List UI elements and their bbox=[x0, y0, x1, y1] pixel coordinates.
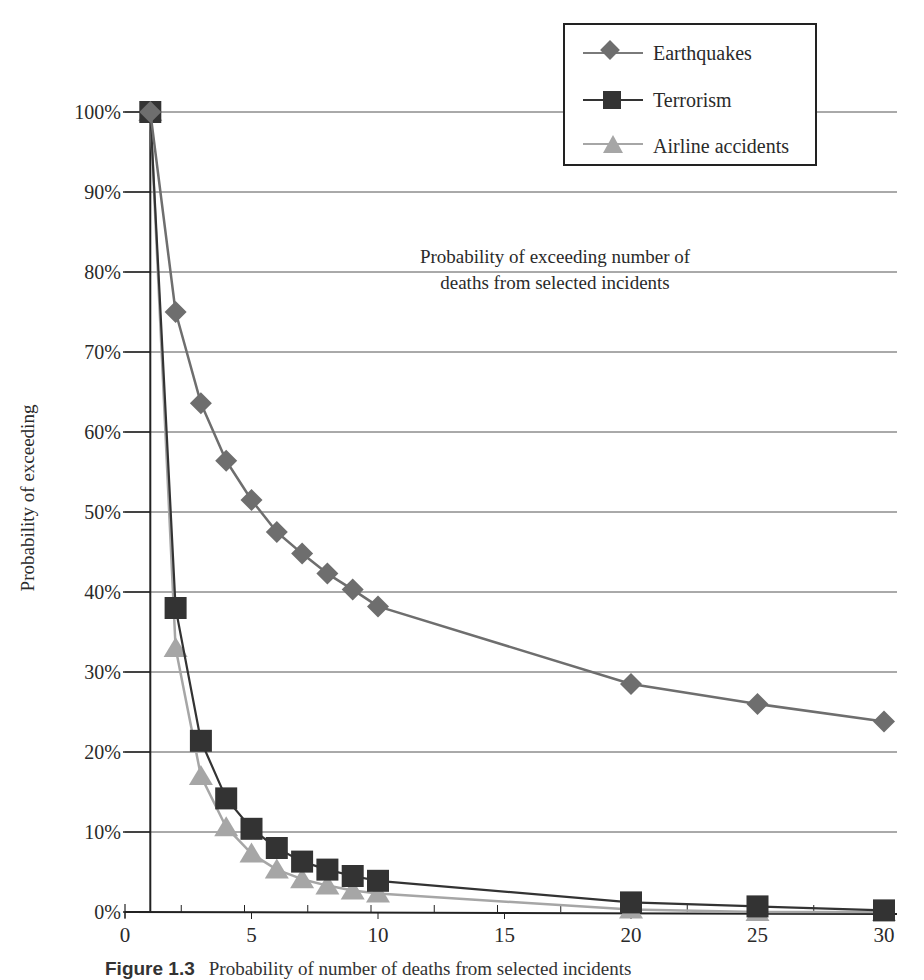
diamond-marker-icon bbox=[215, 450, 237, 472]
series-terrorism bbox=[139, 101, 895, 921]
y-tick-label: 80% bbox=[84, 261, 121, 283]
square-marker-icon bbox=[291, 851, 313, 873]
legend-label: Airline accidents bbox=[653, 135, 789, 158]
axes: 0%10%20%30%40%50%60%70%80%90%100%0510152… bbox=[74, 101, 897, 947]
legend-item-earthquakes: Earthquakes bbox=[565, 38, 815, 68]
y-tick-label: 10% bbox=[84, 821, 121, 843]
y-tick-label: 50% bbox=[84, 501, 121, 523]
square-marker-icon bbox=[583, 85, 647, 115]
y-tick-label: 70% bbox=[84, 341, 121, 363]
diamond-marker-icon bbox=[165, 301, 187, 323]
x-tick-label: 30 bbox=[874, 923, 895, 947]
series-earthquakes bbox=[139, 101, 895, 733]
square-marker-icon bbox=[190, 730, 212, 752]
y-axis-label: Probability of exceeding bbox=[17, 405, 39, 592]
diamond-marker-icon bbox=[873, 711, 895, 733]
legend-item-terrorism: Terrorism bbox=[565, 85, 815, 115]
diamond-marker-icon bbox=[583, 38, 647, 68]
x-tick-label: 15 bbox=[494, 923, 515, 947]
series-airline-accidents bbox=[138, 101, 896, 921]
y-tick-label: 20% bbox=[84, 741, 121, 763]
square-marker-icon bbox=[367, 870, 389, 892]
x-tick-label: 0 bbox=[120, 923, 131, 947]
y-tick-label: 90% bbox=[84, 181, 121, 203]
triangle-marker-icon bbox=[583, 131, 647, 161]
diamond-marker-icon bbox=[747, 693, 769, 715]
square-marker-icon bbox=[747, 895, 769, 917]
square-marker-icon bbox=[873, 899, 895, 921]
x-tick-label: 25 bbox=[747, 923, 768, 947]
figure-caption: Figure 1.3Probability of number of death… bbox=[105, 958, 631, 980]
y-tick-label: 60% bbox=[84, 421, 121, 443]
x-tick-label: 5 bbox=[246, 923, 257, 947]
legend-label: Terrorism bbox=[653, 89, 732, 112]
legend-label: Earthquakes bbox=[653, 42, 752, 65]
triangle-marker-icon bbox=[265, 859, 289, 879]
diamond-marker-icon bbox=[342, 579, 364, 601]
triangle-marker-icon bbox=[189, 765, 213, 785]
triangle-marker-icon bbox=[214, 816, 238, 836]
figure-number: Figure 1.3 bbox=[105, 958, 195, 979]
square-marker-icon bbox=[241, 818, 263, 840]
y-tick-label: 40% bbox=[84, 581, 121, 603]
diamond-marker-icon bbox=[620, 673, 642, 695]
square-marker-icon bbox=[342, 865, 364, 887]
diamond-marker-icon bbox=[241, 489, 263, 511]
gridlines bbox=[125, 112, 897, 832]
square-marker-icon bbox=[316, 859, 338, 881]
y-tick-label: 30% bbox=[84, 661, 121, 683]
annotation-line-2: deaths from selected incidents bbox=[370, 270, 740, 296]
data-series bbox=[138, 101, 896, 921]
caption-text: Probability of number of deaths from sel… bbox=[209, 958, 632, 979]
square-marker-icon bbox=[620, 891, 642, 913]
chart-annotation: Probability of exceeding number of death… bbox=[370, 244, 740, 296]
legend: Earthquakes Terrorism Airline accidents bbox=[563, 23, 817, 166]
y-tick-label: 0% bbox=[94, 901, 121, 923]
square-marker-icon bbox=[215, 787, 237, 809]
annotation-line-1: Probability of exceeding number of bbox=[370, 244, 740, 270]
x-tick-label: 20 bbox=[621, 923, 642, 947]
legend-item-airline-accidents: Airline accidents bbox=[565, 131, 815, 161]
x-tick-label: 10 bbox=[368, 923, 389, 947]
diamond-marker-icon bbox=[190, 392, 212, 414]
diamond-marker-icon bbox=[316, 563, 338, 585]
square-marker-icon bbox=[165, 597, 187, 619]
diamond-marker-icon bbox=[367, 595, 389, 617]
y-tick-label: 100% bbox=[74, 101, 121, 123]
square-marker-icon bbox=[266, 837, 288, 859]
